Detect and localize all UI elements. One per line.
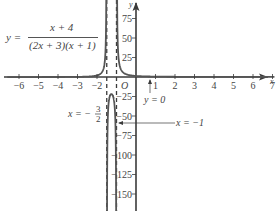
function-graph: xy O−6−5−4−3−21234567755025−25−50−75−100… [0,0,280,211]
y-tick-label: −150 [111,189,132,200]
x-minus-three-halves-lhs: x = − [67,108,91,119]
equation-denominator: (2x + 3)(x + 1) [29,39,96,51]
x-tick-label: 3 [192,80,197,91]
equation-numerator: x + 4 [50,21,73,33]
axes: xy [4,0,274,211]
x-tick-label: −6 [14,80,25,91]
y-tick-label: 75 [122,13,132,24]
equation-lhs: y = [6,31,21,43]
fraction-numerator: 3 [96,104,101,114]
y-axis-label: y [128,0,133,9]
x-tick-label: 2 [173,80,178,91]
y-tick-label: −100 [111,150,132,161]
x-minus1-arrow-icon [118,121,123,125]
x-tick-label: −5 [33,80,44,91]
x-tick-label: 7 [270,80,275,91]
y0-label: y = 0 [143,94,165,105]
y-tick-label: 50 [122,33,132,44]
x-tick-label: 6 [251,80,256,91]
y-tick-label: −75 [116,130,132,141]
x-minus-three-halves-label: x = −32 [67,104,101,124]
x-minus1-label: x = −1 [175,117,204,128]
x-tick-label: 5 [231,80,236,91]
x-tick-label: −2 [92,80,103,91]
x-tick-label: 1 [153,80,158,91]
y-tick-label: −125 [111,169,132,180]
curve-series [7,0,274,211]
y0-arrow-icon [148,79,152,84]
y-tick-label: 25 [122,52,132,63]
origin-label: O [121,80,128,91]
x-tick-label: −3 [72,80,83,91]
fraction-bar [28,37,98,38]
y-tick-label: −25 [116,91,132,102]
x-tick-label: −4 [53,80,64,91]
y-tick-label: −50 [116,111,132,122]
x-tick-label: 4 [212,80,217,91]
curve-right-branch [117,0,275,77]
fraction-denominator: 2 [96,114,101,124]
